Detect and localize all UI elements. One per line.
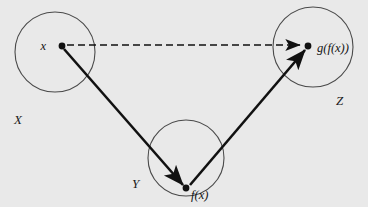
point-dot-x bbox=[59, 43, 66, 50]
point-label-gfx: g(f(x)) bbox=[317, 41, 349, 55]
function-composition-diagram: x f(x) g(f(x)) X Y Z bbox=[0, 0, 374, 217]
diagram-canvas: x f(x) g(f(x)) X Y Z bbox=[0, 0, 374, 217]
diagram-panel-background bbox=[0, 0, 368, 207]
point-dot-fx bbox=[183, 185, 190, 192]
set-label-z: Z bbox=[336, 93, 344, 108]
point-label-x: x bbox=[39, 39, 46, 53]
set-label-x: X bbox=[13, 112, 23, 127]
point-label-fx: f(x) bbox=[191, 188, 208, 202]
point-dot-gfx bbox=[305, 43, 312, 50]
